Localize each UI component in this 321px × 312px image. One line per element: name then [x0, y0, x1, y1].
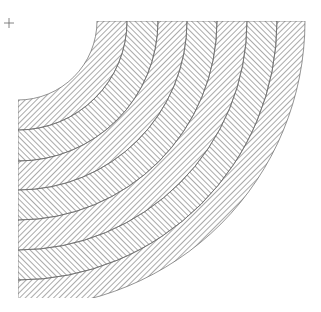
crosshair-icon	[4, 18, 14, 28]
op-art-canvas	[0, 0, 321, 312]
hatched-rings-figure	[0, 0, 321, 312]
